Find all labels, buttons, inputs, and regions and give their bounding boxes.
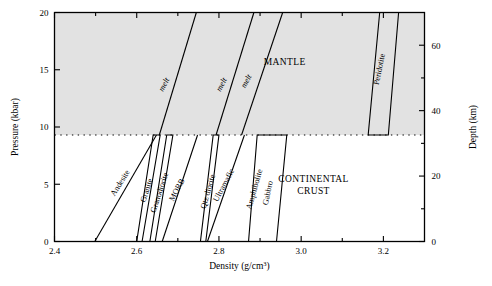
x-tick-label: 3.0 bbox=[296, 246, 308, 256]
y-axis-title-left: Pressure (kbar) bbox=[10, 98, 21, 156]
y-tick-left-label: 10 bbox=[40, 122, 50, 132]
y-tick-left-label: 0 bbox=[44, 237, 49, 247]
y-tick-right-label: 20 bbox=[432, 171, 442, 181]
y-tick-right-label: 0 bbox=[432, 237, 437, 247]
x-tick-label: 3.2 bbox=[378, 246, 389, 256]
rock-label-ultramafic: Ultramafic bbox=[211, 167, 236, 203]
x-tick-label: 2.6 bbox=[131, 246, 143, 256]
x-tick-label: 2.4 bbox=[49, 246, 61, 256]
y-tick-right-label: 40 bbox=[432, 106, 442, 116]
y-axis-title-right: Depth (km) bbox=[468, 105, 479, 149]
y-tick-left-label: 5 bbox=[44, 180, 49, 190]
x-axis-title: Density (g/cm3) bbox=[209, 259, 270, 272]
y-tick-left-label: 20 bbox=[40, 8, 50, 18]
rock-label-gabbro: Gabbro bbox=[261, 180, 275, 206]
chart-svg: 2.42.62.83.03.2051015200204060Pressure (… bbox=[0, 0, 492, 286]
mantle-shaded-region bbox=[55, 13, 425, 136]
x-axis-title-tail: ) bbox=[267, 261, 270, 272]
region-label-mantle: MANTLE bbox=[264, 57, 306, 67]
rock-label-granodiorite: Granodiorite bbox=[149, 171, 171, 214]
y-tick-left-label: 15 bbox=[40, 65, 50, 75]
region-label-continental-crust: CONTINENTAL bbox=[278, 174, 349, 184]
y-tick-right-label: 60 bbox=[432, 41, 442, 51]
x-tick-label: 2.8 bbox=[213, 246, 225, 256]
rock-label-morb: MORB bbox=[167, 177, 187, 203]
region-label-continental-crust-line2: CRUST bbox=[297, 186, 330, 196]
x-axis-title-main: Density (g/cm bbox=[209, 261, 264, 272]
figure-container: 2.42.62.83.03.2051015200204060Pressure (… bbox=[0, 0, 492, 286]
